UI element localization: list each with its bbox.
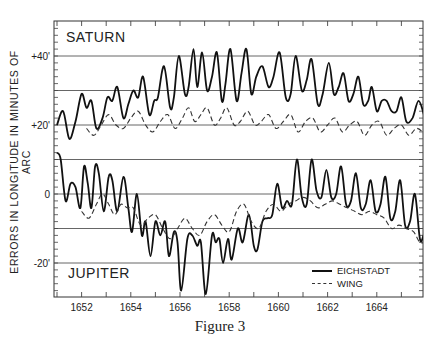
y-tick-label: -20' (34, 258, 50, 269)
x-tick-label: 1662 (316, 302, 339, 313)
y-tick-label: +40' (31, 51, 50, 62)
solid-line-swatch-icon (312, 270, 332, 272)
y-axis-label: ERRORS IN LONGITUDE IN MINUTES OF ARC (8, 47, 32, 277)
y-tick-label: +20' (31, 120, 50, 131)
legend-label-eichstadt: EICHSTADT (337, 264, 390, 277)
x-tick-label: 1656 (169, 302, 192, 313)
x-tick-label: 1660 (267, 302, 290, 313)
legend-item-eichstadt: EICHSTADT (312, 264, 390, 277)
dashed-line-swatch-icon (312, 283, 332, 284)
x-tick-label: 1664 (366, 302, 389, 313)
x-tick-label: 1654 (120, 302, 143, 313)
x-tick-label: 1658 (218, 302, 241, 313)
saturn-label: SATURN (66, 29, 126, 45)
legend-item-wing: WING (312, 277, 390, 290)
legend-label-wing: WING (337, 277, 363, 290)
wing-series-line (87, 107, 427, 138)
plot-frame (54, 21, 423, 297)
chart-plot: 1652165416561658166016621664+40'+20'0-20… (0, 0, 440, 347)
figure-caption: Figure 3 (0, 318, 440, 335)
legend: EICHSTADT WING (312, 264, 390, 290)
jupiter-label: JUPITER (68, 265, 130, 281)
x-tick-label: 1652 (70, 302, 93, 313)
y-tick-label: 0 (44, 189, 50, 200)
